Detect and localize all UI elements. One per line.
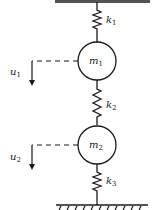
displacement-u2-arrow	[32, 145, 78, 168]
bottom-support	[56, 205, 148, 210]
spring-k1	[93, 2, 101, 42]
spring-k2	[93, 80, 101, 125]
u1-label: u1	[10, 66, 21, 79]
k2-label: k2	[106, 99, 117, 112]
k3-label: k3	[106, 175, 117, 188]
k1-label: k1	[106, 14, 117, 27]
spring-mass-diagram: k1 m1 u1 k2 m2 u2 k3	[0, 0, 157, 210]
spring-k3	[93, 164, 101, 205]
u2-label: u2	[10, 151, 21, 164]
top-support	[55, 0, 150, 2]
arrow-down-icon	[29, 164, 35, 170]
displacement-u1-arrow	[32, 61, 78, 84]
arrow-down-icon	[29, 80, 35, 86]
